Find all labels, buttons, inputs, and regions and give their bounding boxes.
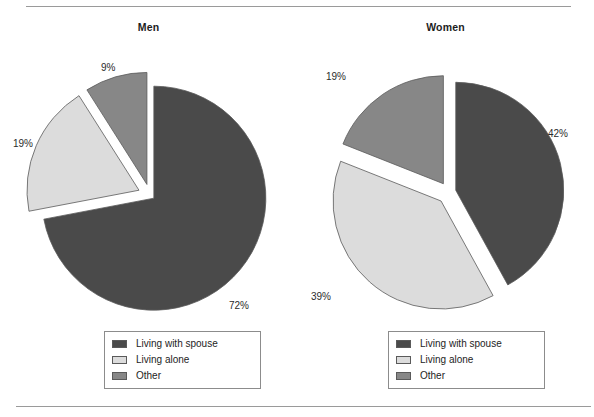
- pie-slice-women-living-with-spouse[interactable]: [456, 82, 564, 285]
- pie-slices-men: [27, 72, 266, 310]
- pie-slice-women-other[interactable]: [343, 76, 443, 184]
- legend-item-living-alone[interactable]: Living alone: [112, 352, 251, 368]
- legend-swatch-living-with-spouse: [396, 340, 411, 348]
- legend-item-other[interactable]: Other: [112, 368, 251, 384]
- pie-label-men-other: 9%: [101, 62, 115, 74]
- legend-item-living-alone[interactable]: Living alone: [396, 352, 535, 368]
- pie-label-women-other: 19%: [326, 71, 346, 83]
- pie-chart-women: [297, 0, 594, 330]
- legend-women: Living with spouse Living alone Other: [388, 331, 545, 389]
- pie-label-men-living-alone: 19%: [13, 138, 33, 150]
- chart-panel-women: Women 42% 39% 19% Living with spouse Liv…: [297, 0, 594, 417]
- pie-label-women-living-alone: 39%: [311, 291, 331, 303]
- pie-slices-women: [333, 76, 564, 309]
- pie-chart-men: [0, 0, 297, 330]
- legend-swatch-living-alone: [112, 356, 127, 364]
- legend-label-living-alone: Living alone: [420, 354, 473, 366]
- legend-swatch-living-alone: [396, 356, 411, 364]
- chart-panel-men: Men 72% 19% 9% Living with spouse Living…: [0, 0, 297, 417]
- legend-item-living-with-spouse[interactable]: Living with spouse: [396, 336, 535, 352]
- legend-item-living-with-spouse[interactable]: Living with spouse: [112, 336, 251, 352]
- legend-label-living-with-spouse: Living with spouse: [136, 338, 218, 350]
- legend-label-other: Other: [136, 370, 161, 382]
- legend-item-other[interactable]: Other: [396, 368, 535, 384]
- legend-label-living-alone: Living alone: [136, 354, 189, 366]
- legend-label-living-with-spouse: Living with spouse: [420, 338, 502, 350]
- pie-svg-women: [297, 0, 594, 330]
- figure-canvas: Men 72% 19% 9% Living with spouse Living…: [0, 0, 594, 417]
- pie-label-women-living-with-spouse: 42%: [548, 128, 568, 140]
- pie-svg-men: [0, 0, 297, 330]
- pie-label-men-living-with-spouse: 72%: [229, 300, 249, 312]
- legend-swatch-other: [396, 372, 411, 380]
- legend-swatch-other: [112, 372, 127, 380]
- legend-swatch-living-with-spouse: [112, 340, 127, 348]
- legend-label-other: Other: [420, 370, 445, 382]
- legend-men: Living with spouse Living alone Other: [104, 331, 261, 389]
